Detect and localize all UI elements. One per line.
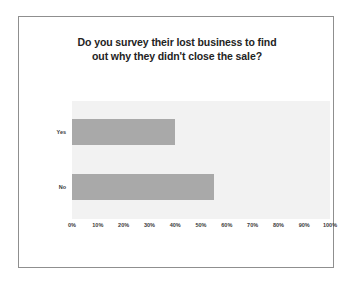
chart-title-line-2: out why they didn't close the sale? (31, 49, 323, 63)
x-tick-label: 30% (144, 222, 155, 228)
category-label-no: No (59, 184, 66, 190)
x-tick-label: 0% (68, 222, 76, 228)
x-tick-label: 90% (299, 222, 310, 228)
x-tick-label: 10% (92, 222, 103, 228)
slide-canvas: Do you survey their lost business to fin… (0, 0, 352, 289)
plot-area: Yes No (72, 101, 330, 219)
x-tick-label: 50% (195, 222, 206, 228)
x-tick-label: 40% (170, 222, 181, 228)
x-axis: 0%10%20%30%40%50%60%70%80%90%100% (72, 222, 330, 234)
category-label-yes: Yes (57, 129, 66, 135)
chart-card: Do you survey their lost business to fin… (18, 16, 334, 268)
bar-yes (72, 119, 175, 145)
chart-title-line-1: Do you survey their lost business to fin… (31, 35, 323, 49)
x-tick-label: 60% (221, 222, 232, 228)
bar-row-yes: Yes (72, 119, 330, 145)
bar-row-no: No (72, 174, 330, 200)
x-tick-label: 80% (273, 222, 284, 228)
x-tick-label: 20% (118, 222, 129, 228)
x-tick-label: 100% (323, 222, 337, 228)
x-tick-label: 70% (247, 222, 258, 228)
bar-no (72, 174, 214, 200)
chart-title: Do you survey their lost business to fin… (31, 35, 323, 63)
